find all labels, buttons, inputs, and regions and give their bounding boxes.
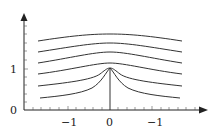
streamline-1 [38,34,182,41]
y-axis-arrow-icon [21,13,28,21]
x-axis: −1 0 −1 [24,106,208,129]
y-axis: 1 0 [10,13,28,117]
y-tick-label-1: 1 [10,63,17,76]
x-tick-label-center: 0 [106,116,113,129]
y-tick-label-0: 0 [10,104,17,117]
streamlines [38,34,182,110]
streamline-diagram: 1 0 [0,0,218,135]
x-tick-label-left: −1 [61,116,77,129]
x-tick-label-right: −1 [147,116,163,129]
streamline-3 [38,52,182,63]
x-axis-arrow-icon [199,107,208,114]
streamline-2 [38,43,182,52]
